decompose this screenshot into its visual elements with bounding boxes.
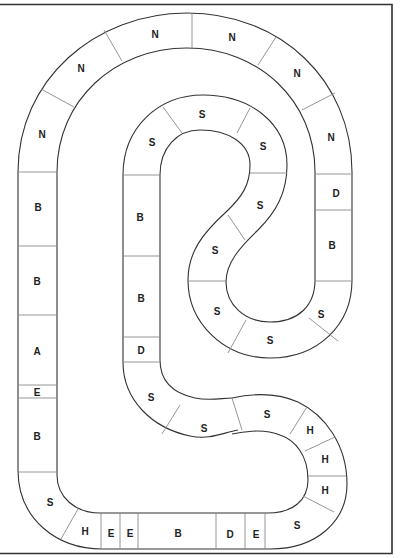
track-cell[interactable] [26, 343, 48, 359]
track-cell[interactable] [219, 526, 241, 542]
cell-labels: NNNNNNDBSSSSSSSSBBDSSSHHHSEDBEEHSBEABB [33, 29, 339, 540]
track-cell[interactable] [26, 384, 48, 400]
track-cell[interactable] [249, 197, 271, 213]
label-svg: NNNNNNDBSSSSSSSSBBDSSSHHHSEDBEEHSBEABB [0, 0, 400, 558]
track-cell[interactable] [167, 525, 189, 541]
track-cell[interactable] [193, 420, 215, 436]
track-cell[interactable] [191, 106, 213, 122]
track-cell[interactable] [26, 273, 48, 289]
track-cell[interactable] [31, 126, 53, 142]
track-cell[interactable] [245, 526, 267, 542]
track-cell[interactable] [39, 494, 61, 510]
track-cell[interactable] [320, 129, 342, 145]
track-cell[interactable] [204, 242, 226, 258]
track-cell[interactable] [299, 422, 321, 438]
track-cell[interactable] [252, 138, 274, 154]
track-cell[interactable] [141, 134, 163, 150]
track-cell[interactable] [74, 523, 96, 539]
track-cell[interactable] [321, 237, 343, 253]
track-cell[interactable] [100, 525, 122, 541]
track-cell[interactable] [286, 65, 308, 81]
track-cell[interactable] [27, 199, 49, 215]
track-cell[interactable] [130, 342, 152, 358]
track-cell[interactable] [314, 482, 336, 498]
track-cell[interactable] [314, 451, 336, 467]
track-cell[interactable] [144, 26, 166, 42]
track-cell[interactable] [206, 303, 228, 319]
track-cell[interactable] [140, 389, 162, 405]
track-cell[interactable] [70, 60, 92, 76]
track-cell[interactable] [259, 332, 281, 348]
track-cell[interactable] [129, 209, 151, 225]
track-cell[interactable] [256, 406, 278, 422]
track-cell[interactable] [130, 290, 152, 306]
track-cell[interactable] [310, 306, 332, 322]
track-cell[interactable] [26, 428, 48, 444]
track-cell[interactable] [221, 29, 243, 45]
track-cell[interactable] [119, 525, 141, 541]
cell-labels-layer: NNNNNNDBSSSSSSSSBBDSSSHHHSEDBEEHSBEABB [0, 0, 400, 558]
track-cell[interactable] [286, 517, 308, 533]
track-cell[interactable] [325, 185, 347, 201]
